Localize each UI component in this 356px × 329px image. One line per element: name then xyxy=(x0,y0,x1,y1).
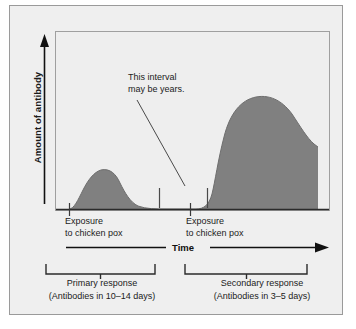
x-axis-label: Time xyxy=(168,242,198,253)
exposure-label-secondary-line-1: Exposure xyxy=(186,216,244,228)
antibody-response-figure: Amount of antibody This interval may be … xyxy=(0,0,356,329)
exposure-label-primary-line-2: to chicken pox xyxy=(65,228,123,240)
exposure-label-primary-line-1: Exposure xyxy=(65,216,123,228)
interval-annotation-line-2: may be years. xyxy=(128,84,185,96)
primary-response-title: Primary response xyxy=(22,277,182,290)
interval-annotation-line-1: This interval xyxy=(128,72,185,84)
exposure-label-primary: Exposure to chicken pox xyxy=(65,216,123,239)
primary-response-caption: Primary response (Antibodies in 10–14 da… xyxy=(22,277,182,302)
plot-area xyxy=(55,31,330,211)
secondary-response-title: Secondary response xyxy=(178,277,346,290)
interval-annotation: This interval may be years. xyxy=(128,72,185,95)
secondary-response-subtitle: (Antibodies in 3–5 days) xyxy=(178,290,346,303)
y-axis-label: Amount of antibody xyxy=(32,48,43,188)
exposure-label-secondary-line-2: to chicken pox xyxy=(186,228,244,240)
exposure-label-secondary: Exposure to chicken pox xyxy=(186,216,244,239)
secondary-response-caption: Secondary response (Antibodies in 3–5 da… xyxy=(178,277,346,302)
primary-response-subtitle: (Antibodies in 10–14 days) xyxy=(22,290,182,303)
